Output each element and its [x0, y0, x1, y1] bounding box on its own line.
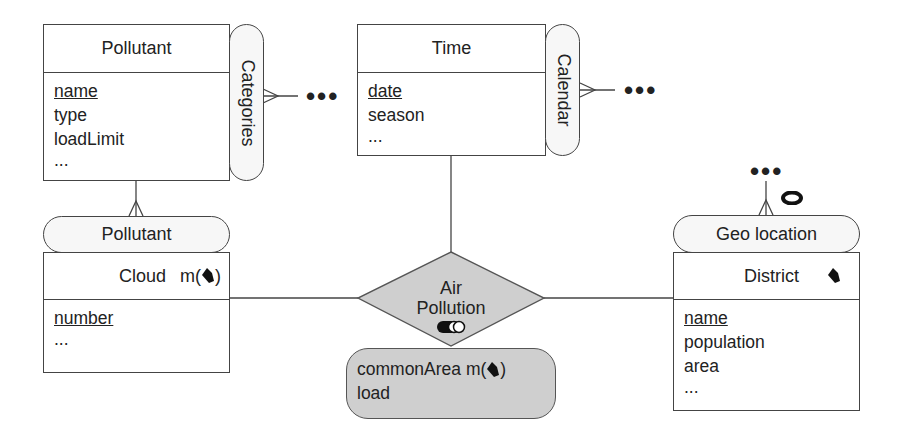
- relationship-label-line2: Pollution: [401, 298, 501, 318]
- entity-title: Cloud: [119, 266, 166, 287]
- attribute: ...: [368, 127, 539, 145]
- attribute: load: [357, 381, 545, 405]
- hierarchy-label: Calendar: [552, 53, 573, 126]
- spatial-marker-close: ): [215, 266, 221, 287]
- hierarchy-label: Pollutant: [101, 224, 171, 245]
- spatial-marker: m(: [180, 266, 201, 287]
- attribute-list: number ...: [54, 306, 223, 348]
- entity-title: Pollutant: [44, 25, 229, 73]
- hierarchy-geo-location[interactable]: Geo location: [673, 215, 860, 253]
- entity-header: Cloud m( ): [44, 253, 229, 300]
- relationship-attributes[interactable]: commonArea m() load: [346, 348, 556, 419]
- ellipsis-calendar: •••: [624, 85, 657, 95]
- topological-ring-icon: [781, 191, 803, 205]
- ellipsis-geo: •••: [750, 166, 783, 176]
- hierarchy-pollutant[interactable]: Pollutant: [43, 216, 230, 253]
- attribute: ...: [684, 378, 853, 396]
- attribute-list: date season ...: [368, 79, 539, 145]
- hierarchy-calendar[interactable]: Calendar: [545, 24, 580, 156]
- attribute-list: name population area ...: [684, 306, 853, 396]
- attribute: commonArea m(: [357, 359, 486, 379]
- attribute: population: [684, 330, 853, 354]
- relationship-air-pollution[interactable]: Air Pollution: [401, 278, 501, 334]
- attribute-key: number: [54, 306, 223, 330]
- spatial-marker-close: ): [500, 359, 506, 379]
- ellipsis-categories: •••: [306, 91, 339, 101]
- hierarchy-categories[interactable]: Categories: [229, 24, 264, 181]
- entity-header: District: [674, 253, 859, 300]
- hierarchy-label: Geo location: [716, 224, 817, 245]
- polygon-icon: [486, 361, 500, 379]
- attribute: season: [368, 103, 539, 127]
- attribute-commonarea: commonArea m(): [357, 357, 545, 381]
- entity-title: Time: [358, 25, 545, 73]
- attribute-key: name: [684, 306, 853, 330]
- attribute: ...: [54, 151, 223, 169]
- hierarchy-label: Categories: [236, 59, 257, 146]
- polygon-icon: [201, 267, 215, 285]
- entity-district[interactable]: District name population area ...: [673, 252, 860, 411]
- attribute: loadLimit: [54, 127, 223, 151]
- attribute-key: name: [54, 79, 223, 103]
- entity-title: District: [744, 266, 799, 287]
- attribute-list: name type loadLimit ...: [54, 79, 223, 169]
- entity-cloud[interactable]: Cloud m( ) number ...: [43, 252, 230, 373]
- attribute: ...: [54, 330, 223, 348]
- topological-overlap-icon: [436, 320, 466, 334]
- polygon-icon: [827, 267, 841, 285]
- relationship-label-line1: Air: [401, 278, 501, 298]
- attribute: area: [684, 354, 853, 378]
- entity-time[interactable]: Time date season ...: [357, 24, 546, 156]
- entity-pollutant[interactable]: Pollutant name type loadLimit ...: [43, 24, 230, 181]
- attribute: type: [54, 103, 223, 127]
- attribute-key: date: [368, 79, 539, 103]
